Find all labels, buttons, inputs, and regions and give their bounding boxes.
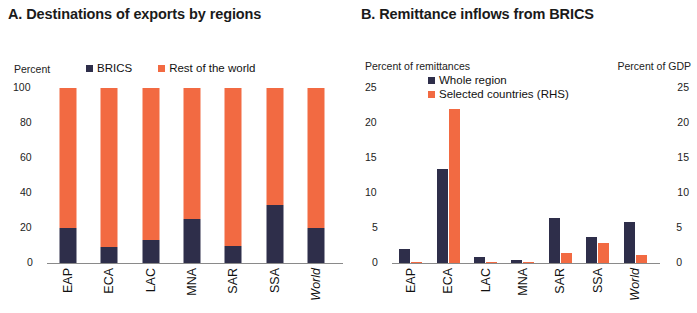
category-label-text: ECA <box>441 268 455 294</box>
legend-item-brics: BRICS <box>86 62 132 74</box>
category-label-text: LAC <box>144 268 158 292</box>
stacked-bar-mna <box>183 88 200 263</box>
panel-b-ytick-left-20: 20 <box>365 116 377 128</box>
category-label-text: LAC <box>479 268 493 292</box>
bar-whole-region <box>399 249 410 263</box>
category-label-text: World <box>309 268 323 301</box>
bar-slot-ssa <box>254 88 295 263</box>
bar-slot-mna <box>504 88 541 263</box>
category-label-ssa: SSA <box>254 266 295 312</box>
bar-slot-sar <box>542 88 579 263</box>
panel-b-ytick-left-5: 5 <box>372 221 378 233</box>
bar-slot-eap <box>47 88 88 263</box>
bar-segment-brics <box>101 247 118 263</box>
category-label-mna: MNA <box>504 266 541 312</box>
bar-whole-region <box>624 222 635 263</box>
category-label-lac: LAC <box>467 266 504 312</box>
panel-a-ytick-40: 40 <box>20 186 32 198</box>
legend-swatch-brics-icon <box>86 65 93 72</box>
category-label-text: SSA <box>591 268 605 293</box>
bar-group-lac <box>473 88 499 263</box>
category-label-sar: SAR <box>542 266 579 312</box>
category-label-text: SAR <box>553 268 567 294</box>
bar-group-eca <box>435 88 461 263</box>
bar-segment-brics <box>308 228 325 263</box>
panel-a-ytick-100: 100 <box>13 81 31 93</box>
panel-b-ytick-right-0: 0 <box>676 256 682 268</box>
legend-swatch-whole-region-icon <box>428 77 435 84</box>
bar-whole-region <box>437 169 448 264</box>
panel-b-left-axis-caption: Percent of remittances <box>365 60 470 72</box>
bar-segment-brics <box>59 228 76 263</box>
bar-segment-brics <box>142 240 159 263</box>
bar-slot-eca <box>429 88 466 263</box>
category-label-text: EAP <box>404 268 418 293</box>
panel-a-category-labels: EAPECALACMNASARSSAWorld <box>47 266 337 312</box>
bar-slot-eca <box>88 88 129 263</box>
category-label-text: MNA <box>516 268 530 296</box>
category-label-lac: LAC <box>130 266 171 312</box>
bar-slot-sar <box>213 88 254 263</box>
panel-a-legend: BRICS Rest of the world <box>86 62 255 74</box>
bar-segment-rest-of-world <box>101 88 118 247</box>
panel-a-ytick-80: 80 <box>20 116 32 128</box>
bar-segment-brics <box>266 205 283 263</box>
panel-b-ytick-left-25: 25 <box>365 81 377 93</box>
bar-group-eap <box>398 88 424 263</box>
bar-group-mna <box>510 88 536 263</box>
stacked-bar-world <box>308 88 325 263</box>
category-label-text: SAR <box>226 268 240 294</box>
category-label-eap: EAP <box>392 266 429 312</box>
panel-a-ytick-60: 60 <box>20 151 32 163</box>
stacked-bar-lac <box>142 88 159 263</box>
bar-segment-rest-of-world <box>308 88 325 228</box>
legend-label-brics: BRICS <box>97 62 132 74</box>
panel-b-title: B. Remittance inflows from BRICS <box>361 6 594 22</box>
bar-segment-brics <box>225 246 242 264</box>
category-label-text: SSA <box>268 268 282 293</box>
stacked-bar-eca <box>101 88 118 263</box>
stacked-bar-ssa <box>266 88 283 263</box>
panel-b-right-axis-caption: Percent of GDP <box>617 60 691 72</box>
legend-label-rest-of-world: Rest of the world <box>169 62 255 74</box>
bar-slot-eap <box>392 88 429 263</box>
panel-b-ytick-left-10: 10 <box>365 186 377 198</box>
bar-slot-lac <box>130 88 171 263</box>
bar-slot-lac <box>467 88 504 263</box>
panel-b-ytick-left-15: 15 <box>365 151 377 163</box>
category-label-sar: SAR <box>213 266 254 312</box>
bar-segment-rest-of-world <box>59 88 76 228</box>
panel-b-ytick-right-15: 15 <box>677 151 689 163</box>
panel-b-ytick-right-20: 20 <box>677 116 689 128</box>
category-label-ssa: SSA <box>579 266 616 312</box>
panel-a-exports: A. Destinations of exports by regions Pe… <box>0 0 352 313</box>
bar-slot-world <box>296 88 337 263</box>
legend-swatch-rest-of-world-icon <box>158 65 165 72</box>
panel-b-ytick-right-25: 25 <box>677 81 689 93</box>
panel-a-plot-area <box>47 88 337 264</box>
bar-group-sar <box>547 88 573 263</box>
panel-b-plot-area <box>392 88 654 264</box>
category-label-eca: ECA <box>429 266 466 312</box>
category-label-text: MNA <box>185 268 199 296</box>
bar-segment-rest-of-world <box>266 88 283 205</box>
bar-group-ssa <box>585 88 611 263</box>
panel-b-remittances: B. Remittance inflows from BRICS Percent… <box>352 0 697 313</box>
bar-selected-countries <box>449 109 460 263</box>
category-label-eca: ECA <box>88 266 129 312</box>
category-label-mna: MNA <box>171 266 212 312</box>
category-label-world: World <box>617 266 654 312</box>
bar-slot-world <box>617 88 654 263</box>
bar-slot-ssa <box>579 88 616 263</box>
panel-b-ytick-right-10: 10 <box>677 186 689 198</box>
panel-a-ytick-0: 0 <box>27 256 33 268</box>
bar-segment-rest-of-world <box>183 88 200 219</box>
bar-whole-region <box>586 237 597 263</box>
bar-group-world <box>622 88 648 263</box>
figure-root: A. Destinations of exports by regions Pe… <box>0 0 697 313</box>
bar-segment-rest-of-world <box>142 88 159 240</box>
legend-label-whole-region: Whole region <box>439 74 507 86</box>
panel-b-baseline <box>392 263 660 264</box>
panel-a-axis-caption: Percent <box>14 63 50 75</box>
panel-a-title: A. Destinations of exports by regions <box>8 6 261 22</box>
